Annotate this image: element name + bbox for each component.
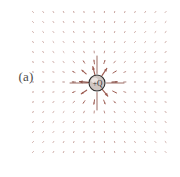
field-arrow bbox=[165, 142, 166, 143]
field-arrow bbox=[124, 92, 126, 93]
field-arrow bbox=[73, 111, 74, 112]
field-arrow bbox=[155, 42, 156, 43]
field-arrow bbox=[165, 42, 166, 43]
field-arrow bbox=[135, 112, 136, 113]
field-arrow bbox=[83, 61, 85, 63]
field-arrow bbox=[165, 122, 166, 123]
field-arrow bbox=[134, 62, 135, 63]
field-arrow bbox=[145, 152, 146, 153]
field-arrow bbox=[165, 132, 166, 133]
field-arrow bbox=[53, 62, 54, 63]
field-arrow bbox=[125, 131, 126, 132]
field-arrow bbox=[43, 22, 44, 23]
field-arrow bbox=[43, 32, 44, 33]
field-arrow bbox=[43, 142, 44, 143]
field-arrow bbox=[135, 132, 136, 133]
field-arrow bbox=[43, 122, 44, 123]
field-arrow bbox=[145, 112, 146, 113]
field-arrow bbox=[81, 90, 86, 94]
field-arrow bbox=[104, 111, 105, 113]
field-arrow bbox=[32, 112, 33, 113]
field-arrow bbox=[63, 62, 64, 63]
field-arrow bbox=[73, 71, 75, 72]
field-arrow bbox=[33, 132, 34, 133]
field-arrow bbox=[63, 151, 64, 152]
field-arrow bbox=[63, 122, 64, 123]
field-arrow bbox=[125, 21, 126, 22]
field-arrow bbox=[63, 21, 64, 22]
field-arrow bbox=[53, 122, 54, 123]
field-arrow bbox=[165, 22, 166, 23]
field-arrow bbox=[63, 42, 64, 43]
field-arrow bbox=[155, 132, 156, 133]
field-arrow bbox=[43, 42, 44, 43]
field-arrow bbox=[145, 22, 146, 23]
field-arrow bbox=[155, 32, 156, 33]
field-arrow bbox=[43, 112, 44, 113]
field-arrow bbox=[165, 152, 166, 153]
field-arrow bbox=[63, 141, 64, 142]
field-arrow bbox=[104, 100, 106, 104]
field-arrow bbox=[53, 112, 54, 113]
field-arrow bbox=[32, 52, 33, 53]
field-arrow bbox=[53, 52, 54, 53]
field-arrow bbox=[135, 151, 136, 152]
field-arrow bbox=[63, 52, 64, 53]
field-arrow bbox=[33, 142, 34, 143]
field-arrow bbox=[165, 52, 166, 53]
field-arrow bbox=[135, 122, 136, 123]
field-arrow bbox=[145, 32, 146, 33]
field-arrow bbox=[33, 22, 34, 23]
field-arrow bbox=[124, 42, 125, 43]
field-arrow bbox=[53, 151, 54, 152]
field-arrow bbox=[114, 101, 116, 103]
field-arrow bbox=[72, 81, 75, 82]
field-arrow bbox=[43, 152, 44, 153]
field-arrow bbox=[53, 132, 54, 133]
field-arrow bbox=[134, 102, 135, 103]
field-vector-diagram: +Q bbox=[0, 0, 180, 177]
field-arrow bbox=[43, 52, 44, 53]
field-arrow bbox=[74, 41, 75, 42]
field-arrow bbox=[155, 22, 156, 23]
field-arrow bbox=[135, 142, 136, 143]
field-arrow bbox=[135, 52, 136, 53]
field-arrow bbox=[125, 31, 126, 32]
field-arrow bbox=[145, 12, 146, 13]
field-arrow bbox=[124, 122, 125, 123]
field-arrow bbox=[43, 132, 44, 133]
field-arrow bbox=[63, 11, 64, 12]
field-arrow bbox=[145, 132, 146, 133]
field-arrow bbox=[124, 52, 125, 53]
field-arrow bbox=[63, 132, 64, 133]
field-arrow bbox=[165, 12, 166, 13]
field-arrow bbox=[73, 121, 74, 122]
field-arrow bbox=[125, 141, 126, 142]
field-arrow bbox=[145, 142, 146, 143]
field-arrow bbox=[84, 51, 85, 52]
field-arrow bbox=[124, 62, 125, 63]
field-arrow bbox=[32, 42, 33, 43]
field-arrow bbox=[113, 91, 117, 93]
field-arrow bbox=[93, 100, 95, 105]
field-arrow bbox=[155, 52, 156, 53]
field-arrow bbox=[63, 32, 64, 33]
field-arrow bbox=[32, 122, 33, 123]
field-arrow bbox=[53, 32, 54, 33]
field-arrow bbox=[83, 101, 85, 104]
field-arrow bbox=[114, 121, 115, 122]
field-arrow bbox=[53, 22, 54, 23]
field-arrow bbox=[145, 42, 146, 43]
field-arrow bbox=[135, 11, 136, 12]
field-arrow bbox=[124, 112, 125, 113]
field-arrow bbox=[155, 112, 156, 113]
field-arrow bbox=[145, 52, 146, 53]
field-arrow bbox=[73, 61, 74, 62]
field-arrow bbox=[93, 60, 94, 64]
field-arrow bbox=[113, 71, 116, 73]
point-charge-group: +Q bbox=[89, 75, 105, 91]
field-arrow bbox=[84, 111, 85, 113]
field-arrow bbox=[155, 152, 156, 153]
field-arrow bbox=[165, 32, 166, 33]
field-arrow bbox=[43, 12, 44, 13]
